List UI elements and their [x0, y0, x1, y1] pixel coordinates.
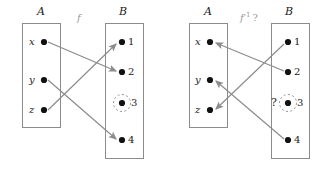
node-4: [285, 137, 291, 143]
undefined-preimage-question-mark: ?: [271, 97, 277, 108]
set-a-title: A: [204, 6, 212, 17]
label-2: 2: [294, 67, 300, 77]
label-4: 4: [294, 135, 300, 145]
right-panel-graphics: [0, 0, 331, 173]
node-1: [285, 39, 291, 45]
set-b-title: B: [285, 6, 293, 17]
right-panel: A B f-1? x y z 1 2 3 4 ?: [0, 0, 331, 173]
arrow-4-to-y: [216, 81, 284, 139]
mapping-label-question: ?: [253, 12, 258, 23]
node-y: [207, 77, 213, 83]
label-x: x: [195, 37, 201, 47]
label-1: 1: [294, 37, 300, 47]
arrow-2-to-x: [216, 43, 284, 71]
mapping-label-superscript: -1: [244, 11, 251, 19]
label-z: z: [195, 105, 200, 115]
label-y: y: [195, 75, 201, 85]
mapping-label: f-1?: [240, 12, 258, 23]
label-3: 3: [297, 98, 303, 108]
function-inverse-diagram: A B f x y z 1 2 3 4: [0, 0, 331, 173]
node-x: [207, 39, 213, 45]
node-z: [207, 107, 213, 113]
node-3: [285, 100, 291, 106]
node-2: [285, 69, 291, 75]
